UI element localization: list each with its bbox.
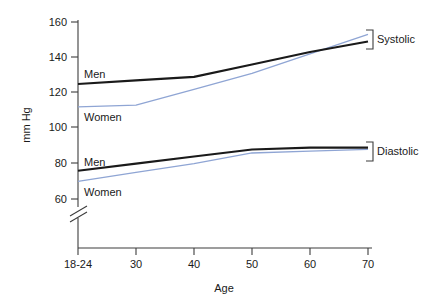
inline-label-women-diastolic: Women bbox=[84, 186, 122, 198]
y-tick-label-160: 160 bbox=[49, 16, 67, 28]
x-tick-label-30: 30 bbox=[130, 258, 142, 270]
x-tick-label-60: 60 bbox=[304, 258, 316, 270]
y-axis-title: mm Hg bbox=[20, 107, 32, 142]
x-tick-label-50: 50 bbox=[246, 258, 258, 270]
x-axis-title: Age bbox=[214, 282, 234, 294]
group-label-systolic: Systolic bbox=[377, 33, 415, 45]
y-tick-label-100: 100 bbox=[49, 121, 67, 133]
blood-pressure-line-chart: 160 140 120 100 80 60 18-24 30 40 50 60 … bbox=[0, 0, 441, 301]
x-tick-label-18-24: 18-24 bbox=[64, 258, 92, 270]
inline-label-men-diastolic: Men bbox=[84, 156, 105, 168]
inline-label-men-systolic: Men bbox=[84, 68, 105, 80]
x-tick-label-70: 70 bbox=[362, 258, 374, 270]
group-label-diastolic: Diastolic bbox=[377, 145, 419, 157]
inline-label-women-systolic: Women bbox=[84, 111, 122, 123]
x-tick-label-40: 40 bbox=[188, 258, 200, 270]
y-tick-label-120: 120 bbox=[49, 86, 67, 98]
chart-svg: 160 140 120 100 80 60 18-24 30 40 50 60 … bbox=[0, 0, 441, 301]
chart-background bbox=[0, 0, 441, 301]
y-tick-label-80: 80 bbox=[55, 157, 67, 169]
y-tick-label-60: 60 bbox=[55, 193, 67, 205]
y-tick-label-140: 140 bbox=[49, 51, 67, 63]
